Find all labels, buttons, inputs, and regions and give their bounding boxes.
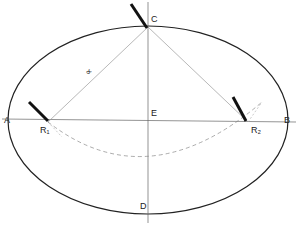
line-c-r2 (148, 27, 248, 122)
diagram-canvas: A B C D E R₁ R₂ ∝ (0, 0, 298, 225)
pin-r1 (29, 102, 48, 121)
label-a: A (4, 115, 10, 125)
pin-r2 (233, 97, 246, 121)
line-r1-ext (48, 122, 62, 137)
ellipse-diagram: A B C D E R₁ R₂ ∝ (0, 0, 298, 225)
label-e: E (151, 108, 157, 118)
label-angle: ∝ (82, 66, 93, 78)
label-d: D (140, 201, 147, 211)
label-r2: R₂ (251, 125, 261, 135)
line-r2-ext (248, 102, 262, 122)
label-c: C (151, 14, 158, 24)
pin-c (131, 4, 147, 28)
label-b: B (284, 115, 290, 125)
label-r1: R₁ (40, 125, 50, 135)
line-c-r1 (48, 27, 148, 122)
